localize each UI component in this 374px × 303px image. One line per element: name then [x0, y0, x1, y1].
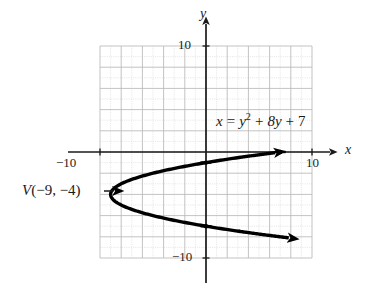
equation-plus-1: +: [255, 113, 263, 129]
y-axis-label: y: [200, 7, 206, 21]
equation-exponent: 2: [246, 111, 251, 122]
vertex-label-coords: (−9, −4): [31, 182, 80, 198]
y-tick-label-neg10: −10: [172, 250, 192, 263]
x-tick-label-neg10: −10: [56, 156, 76, 169]
y-tick-label-pos10: 10: [178, 38, 191, 51]
graph-figure: x y −10 10 10 −10 x=y2+8y+7 V(−9, −4): [0, 0, 374, 303]
vertex-label: V(−9, −4): [22, 183, 81, 198]
equation-label: x=y2+8y+7: [216, 114, 306, 129]
equation-constant: 7: [298, 113, 306, 129]
x-axis-label: x: [345, 143, 351, 157]
equation-lhs: x: [216, 113, 223, 129]
x-tick-label-pos10: 10: [306, 156, 319, 169]
equation-plus-2: +: [286, 113, 294, 129]
equation-equals: =: [227, 113, 235, 129]
vertex-label-v: V: [22, 182, 31, 198]
equation-term-2: 8y: [267, 113, 281, 129]
equation-variable: y: [239, 113, 246, 129]
marked-point: [275, 150, 286, 154]
